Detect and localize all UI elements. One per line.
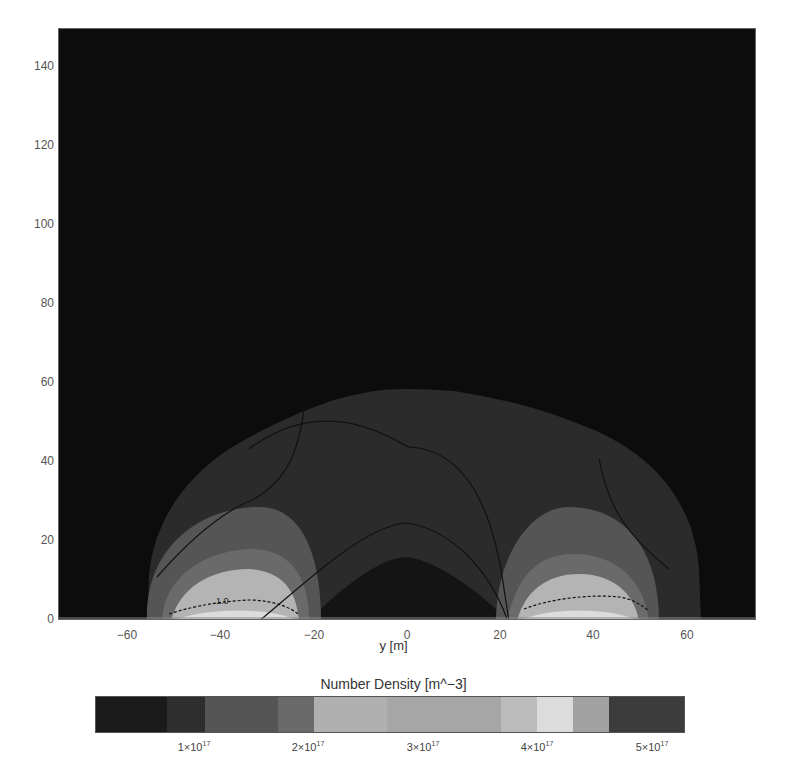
contour-plot-area: 1.0: [58, 28, 756, 620]
x-axis-label: y [m]: [0, 638, 787, 653]
y-tick-label: 100: [14, 217, 54, 231]
contour-fill: 1.0: [59, 29, 756, 620]
colorbar-segment: [609, 697, 684, 732]
y-tick-label: 120: [14, 138, 54, 152]
colorbar-segment: [573, 697, 609, 732]
colorbar-tick-label: 2×1017: [268, 740, 348, 753]
colorbar-segment: [501, 697, 537, 732]
colorbar-title: Number Density [m^−3]: [0, 676, 787, 692]
y-tick-label: 80: [14, 296, 54, 310]
colorbar-segment: [96, 697, 167, 732]
y-tick-label: 140: [14, 59, 54, 73]
colorbar-segment: [537, 697, 573, 732]
colorbar-segment: [278, 697, 313, 732]
colorbar-segment: [205, 697, 279, 732]
colorbar-segment: [314, 697, 388, 732]
colorbar-tick-label: 1×1017: [154, 740, 234, 753]
y-tick-label: 0: [14, 612, 54, 626]
y-tick-label: 60: [14, 375, 54, 389]
colorbar-segment: [167, 697, 205, 732]
colorbar: [95, 696, 685, 733]
y-tick-label: 20: [14, 533, 54, 547]
colorbar-segment: [387, 697, 500, 732]
y-tick-label: 40: [14, 454, 54, 468]
contour-label: 1.0: [216, 596, 229, 606]
colorbar-tick-label: 5×1017: [612, 740, 692, 753]
colorbar-tick-label: 4×1017: [497, 740, 577, 753]
colorbar-tick-label: 3×1017: [383, 740, 463, 753]
